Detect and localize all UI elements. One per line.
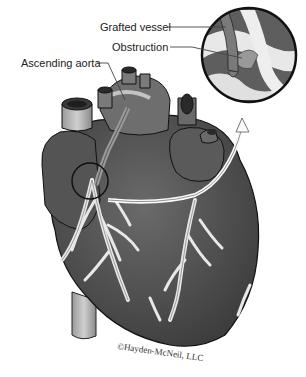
- heart-bypass-illustration: Grafted vessel Obstruction Ascending aor…: [0, 0, 306, 377]
- label-obstruction: Obstruction: [112, 41, 168, 53]
- label-grafted-vessel: Grafted vessel: [100, 21, 171, 33]
- magnified-view: [200, 5, 300, 110]
- label-ascending-aorta: Ascending aorta: [21, 57, 101, 69]
